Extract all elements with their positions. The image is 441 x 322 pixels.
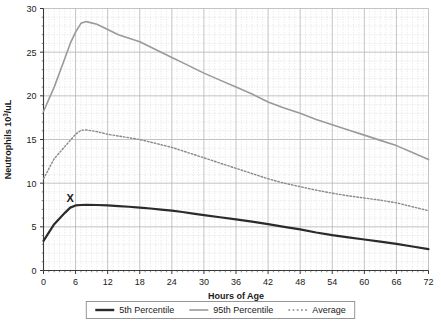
x-tick-label: 42 bbox=[263, 277, 273, 287]
x-tick-label: 6 bbox=[73, 277, 78, 287]
x-axis-title: Hours of Age bbox=[208, 291, 264, 301]
x-marker: X bbox=[67, 192, 75, 204]
legend-label-95th-percentile: 95th Percentile bbox=[213, 305, 273, 315]
y-tick-label: 15 bbox=[26, 135, 36, 145]
legend-label-average: Average bbox=[312, 305, 345, 315]
x-tick-label: 30 bbox=[199, 277, 209, 287]
x-tick-label: 12 bbox=[103, 277, 113, 287]
x-tick-label: 24 bbox=[167, 277, 177, 287]
y-tick-label: 0 bbox=[31, 266, 36, 276]
y-axis-title: Neutrophils 103/uL bbox=[2, 99, 14, 179]
annotations-group: X bbox=[67, 192, 75, 204]
legend-label-5th-percentile: 5th Percentile bbox=[119, 305, 174, 315]
x-tick-label: 36 bbox=[231, 277, 241, 287]
x-tick-label: 66 bbox=[391, 277, 401, 287]
y-tick-label: 10 bbox=[26, 179, 36, 189]
y-tick-label: 20 bbox=[26, 91, 36, 101]
x-tick-label: 60 bbox=[359, 277, 369, 287]
x-tick-label: 54 bbox=[327, 277, 337, 287]
x-tick-label: 48 bbox=[295, 277, 305, 287]
neutrophil-chart: 061218243036424854606672 051015202530 X … bbox=[0, 0, 441, 322]
x-tick-label: 72 bbox=[423, 277, 433, 287]
x-tick-label: 18 bbox=[135, 277, 145, 287]
y-tick-label: 5 bbox=[31, 222, 36, 232]
chart-canvas: 061218243036424854606672 051015202530 X … bbox=[0, 0, 441, 322]
y-tick-label: 25 bbox=[26, 48, 36, 58]
x-tick-label: 0 bbox=[41, 277, 46, 287]
y-tick-label: 30 bbox=[26, 4, 36, 14]
legend: 5th Percentile95th PercentileAverage bbox=[86, 302, 354, 319]
